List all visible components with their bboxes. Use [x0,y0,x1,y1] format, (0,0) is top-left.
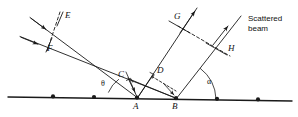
scattered-beam-annotation: Scattered beam [248,14,282,33]
atom-dot-4 [256,97,260,101]
label-point-F: F [47,44,53,53]
incident-arrow-lower [21,37,38,44]
atom-row-line [8,97,292,101]
label-point-D: D [157,66,164,75]
label-point-G: G [174,12,181,21]
scattered-beam-line-1: Scattered [248,14,282,24]
atom-dot-B [174,96,178,100]
segment-A-to-D [138,75,154,98]
scattered-ray-from-B [177,16,242,98]
construction-arrow-D [164,84,174,95]
label-point-A: A [133,102,139,111]
label-point-C: C [118,70,124,79]
wavefront-tick-H [206,43,227,55]
label-point-E: E [65,11,71,20]
construction-arrow-C [126,72,135,92]
incident-arrow-upper [31,18,46,29]
atom-dot-A [135,96,139,100]
atom-dot-2 [92,95,96,99]
atom-dot-3 [215,97,219,101]
scattered-beam-line-2: beam [248,24,282,34]
label-point-H: H [228,44,235,53]
label-angle-alpha: α [207,78,211,86]
label-point-B: B [172,102,178,111]
label-angle-theta: θ [101,80,105,88]
diffraction-diagram: E F G H C D A B θ α Scattered beam [0,0,298,117]
theta-angle-arc [109,79,119,92]
atom-dot-1 [51,94,55,98]
scattered-arrow-from-A [180,11,195,33]
